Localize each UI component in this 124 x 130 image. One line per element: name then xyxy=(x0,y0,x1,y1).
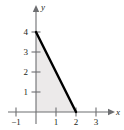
y-tick-label-2: 2 xyxy=(24,67,29,77)
coordinate-plane-svg: −1 1 2 3 1 2 3 4 x y xyxy=(0,0,124,130)
x-tick-label-2: 2 xyxy=(74,117,79,127)
y-tick-label-1: 1 xyxy=(24,87,29,97)
x-tick-label-3: 3 xyxy=(94,117,99,127)
x-axis-label: x xyxy=(115,107,120,117)
y-tick-label-4: 4 xyxy=(24,27,29,37)
y-axis-label: y xyxy=(40,2,45,12)
y-tick-label-3: 3 xyxy=(24,47,29,57)
x-tick-label-1: 1 xyxy=(54,117,59,127)
x-tick-label-neg1: −1 xyxy=(11,117,21,127)
graph-figure: −1 1 2 3 1 2 3 4 x y xyxy=(0,0,124,130)
